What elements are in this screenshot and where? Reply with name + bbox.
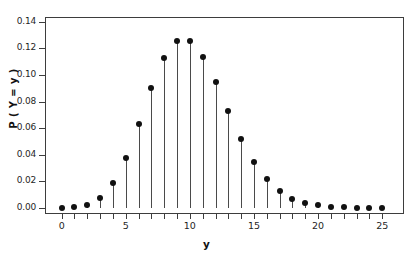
data-point-marker [161, 55, 167, 61]
stem-line [254, 162, 255, 208]
x-axis-tick [382, 214, 383, 219]
stem-line [203, 57, 204, 208]
x-axis-tick [369, 214, 370, 219]
data-point-marker [379, 205, 385, 211]
x-axis-tick [216, 214, 217, 219]
y-axis-tick-label: 0.04 [0, 150, 36, 159]
data-point-marker [110, 180, 116, 186]
y-axis-tick-label: 0.06 [0, 123, 36, 132]
y-axis-tick-label: 0.08 [0, 97, 36, 106]
data-point-marker [354, 205, 360, 211]
stem-line [228, 111, 229, 208]
stem-line [164, 58, 165, 208]
x-axis-title: y [0, 238, 413, 250]
x-axis-tick [126, 214, 127, 219]
x-axis-tick [241, 214, 242, 219]
data-point-marker [289, 196, 295, 202]
chart-figure: P ( Y = y ) y 0.000.020.040.060.080.100.… [0, 0, 413, 260]
data-point-marker [213, 79, 219, 85]
x-axis-tick-label: 20 [303, 221, 333, 231]
x-axis-tick-label: 5 [111, 221, 141, 231]
x-axis-tick-label: 0 [47, 221, 77, 231]
y-axis-tick [39, 128, 45, 129]
stem-line [113, 183, 114, 208]
x-axis-tick [190, 214, 191, 219]
stem-line [126, 158, 127, 208]
y-axis-tick-label: 0.10 [0, 70, 36, 79]
x-axis-tick [139, 214, 140, 219]
y-axis-tick-label: 0.14 [0, 17, 36, 26]
data-point-marker [123, 155, 129, 161]
data-point-marker [264, 176, 270, 182]
x-axis-tick [151, 214, 152, 219]
y-axis-tick [39, 48, 45, 49]
data-point-marker [277, 188, 283, 194]
data-point-marker [71, 204, 77, 210]
data-point-marker [302, 200, 308, 206]
x-axis-tick [164, 214, 165, 219]
data-point-marker [136, 121, 142, 127]
y-axis-tick-label: 0.12 [0, 43, 36, 52]
x-axis-tick [203, 214, 204, 219]
data-point-marker [84, 202, 90, 208]
data-point-marker [97, 195, 103, 201]
x-axis-tick [228, 214, 229, 219]
y-axis-tick [39, 208, 45, 209]
data-point-marker [187, 38, 193, 44]
data-point-marker [174, 38, 180, 44]
x-axis-tick [331, 214, 332, 219]
x-axis-tick [74, 214, 75, 219]
y-axis-tick-label: 0.00 [0, 203, 36, 212]
data-point-marker [341, 204, 347, 210]
stem-line [151, 88, 152, 208]
x-axis-tick [267, 214, 268, 219]
x-axis-tick [113, 214, 114, 219]
x-axis-tick [254, 214, 255, 219]
plot-area [45, 17, 404, 214]
y-axis-tick-label: 0.02 [0, 176, 36, 185]
y-axis-tick [39, 22, 45, 23]
stem-line [216, 82, 217, 208]
data-point-marker [148, 85, 154, 91]
x-axis-tick [292, 214, 293, 219]
stem-line [190, 42, 191, 209]
y-axis-tick [39, 102, 45, 103]
x-axis-tick-label: 15 [239, 221, 269, 231]
x-axis-tick-label: 10 [175, 221, 205, 231]
x-axis-tick [318, 214, 319, 219]
x-axis-tick [280, 214, 281, 219]
data-point-marker [315, 202, 321, 208]
x-axis-tick [305, 214, 306, 219]
x-axis-tick [100, 214, 101, 219]
data-point-marker [225, 108, 231, 114]
data-point-marker [328, 204, 334, 210]
y-axis-tick [39, 155, 45, 156]
data-point-marker [200, 54, 206, 60]
x-axis-tick [177, 214, 178, 219]
x-axis-tick [62, 214, 63, 219]
x-axis-tick [344, 214, 345, 219]
x-axis-tick-label: 25 [367, 221, 397, 231]
x-axis-tick [87, 214, 88, 219]
data-point-marker [251, 159, 257, 165]
y-axis-tick [39, 181, 45, 182]
y-axis-tick [39, 75, 45, 76]
x-axis-tick [357, 214, 358, 219]
data-point-marker [366, 205, 372, 211]
stem-line [177, 42, 178, 209]
stem-line [267, 179, 268, 208]
stem-line [139, 124, 140, 208]
data-point-marker [59, 205, 65, 211]
stem-line [241, 139, 242, 208]
data-point-marker [238, 136, 244, 142]
